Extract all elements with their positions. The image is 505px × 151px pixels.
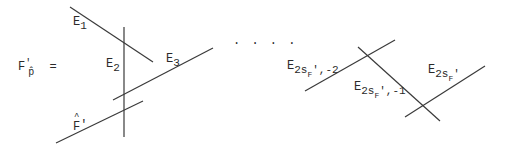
equals-sign: =: [49, 60, 56, 74]
label-e1-sub: 1: [80, 20, 87, 32]
label-e3: E3: [166, 53, 180, 65]
line-e3: [113, 48, 213, 100]
label-e2sf-m1-tail: ',-1: [379, 85, 405, 97]
label-e2sf-sub: 2s: [435, 68, 448, 80]
label-e2sf-tail: ': [453, 68, 460, 80]
lhs-sub: p̂: [28, 67, 34, 78]
label-e2sf-m2-sub: 2s: [294, 64, 307, 76]
label-e1: E1: [73, 16, 87, 28]
label-e2sf-m2-tail: ',-2: [312, 64, 338, 76]
label-e2sf-m1-sub: 2s: [361, 85, 374, 97]
label-e2sf: E2sF': [428, 64, 460, 76]
label-e3-sub: 3: [173, 57, 180, 69]
label-e2: E2: [106, 58, 120, 70]
label-e2-sub: 2: [113, 62, 120, 74]
label-fhat-sup: ': [80, 118, 87, 132]
line-f-hat-prime: [56, 101, 143, 143]
label-e2sf-minus-1: E2sF',-1: [354, 81, 406, 93]
label-e2sf-minus-2: E2sF',-2: [287, 60, 339, 72]
label-f-hat-prime: F': [73, 121, 87, 133]
ellipsis: . . . .: [233, 35, 297, 47]
lhs-label: F'p̂ =: [18, 61, 57, 73]
